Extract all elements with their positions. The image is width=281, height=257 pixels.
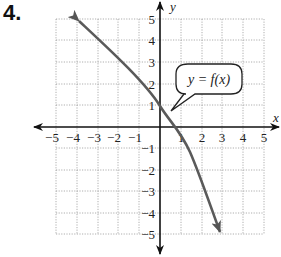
- x-axis-label: x: [272, 110, 279, 125]
- svg-text:4: 4: [240, 130, 247, 145]
- svg-text:−1: −1: [128, 130, 142, 145]
- svg-text:3: 3: [219, 130, 226, 145]
- svg-text:5: 5: [261, 130, 268, 145]
- svg-text:2: 2: [199, 130, 206, 145]
- svg-text:−2: −2: [107, 130, 121, 145]
- svg-text:4: 4: [149, 33, 156, 48]
- y-axis-label: y: [168, 0, 176, 14]
- svg-text:−4: −4: [141, 206, 155, 221]
- function-callout: y = f(x): [171, 64, 242, 111]
- x-tick-labels: −5 −4 −3 −2 −1 1 2 3 4 5: [45, 130, 267, 145]
- coordinate-plane: x y −5 −4 −3 −2 −1 1 2 3 4 5 5 4 3 2 1 −…: [0, 0, 281, 257]
- svg-text:−5: −5: [141, 227, 155, 242]
- svg-text:−5: −5: [45, 130, 59, 145]
- svg-text:−1: −1: [141, 141, 155, 156]
- svg-text:3: 3: [149, 55, 156, 70]
- svg-text:5: 5: [149, 12, 156, 27]
- svg-text:−4: −4: [66, 130, 80, 145]
- svg-text:−3: −3: [141, 184, 155, 199]
- svg-text:1: 1: [149, 98, 156, 113]
- svg-text:−2: −2: [141, 163, 155, 178]
- callout-label: y = f(x): [186, 72, 230, 88]
- svg-text:−3: −3: [87, 130, 101, 145]
